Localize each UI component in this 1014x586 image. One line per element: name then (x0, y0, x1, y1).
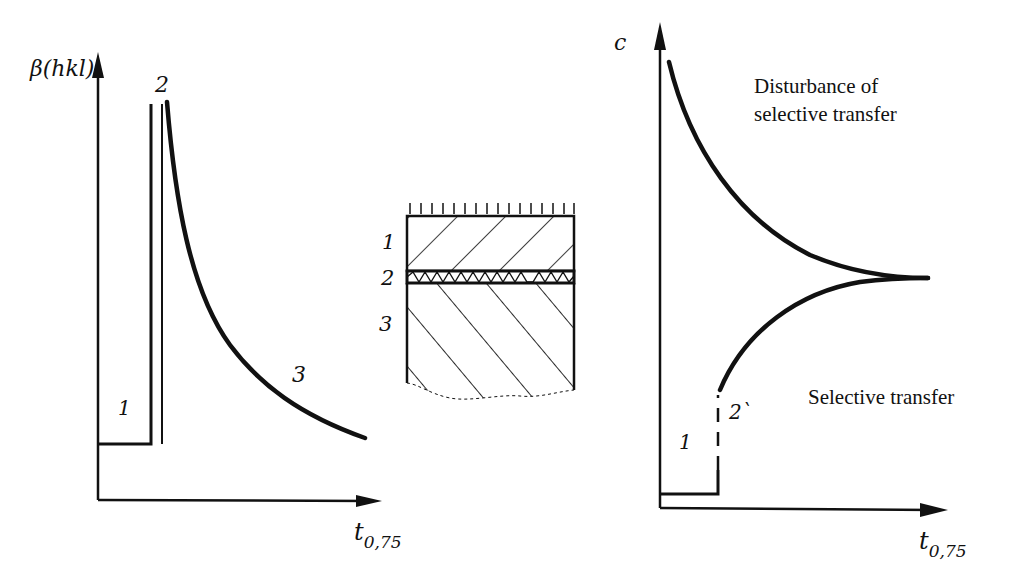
right-graph: c Disturbance of selective transfer Sele… (614, 22, 967, 561)
figure-canvas: β(hkl) 1 2 3 t0,75 1 2 3 (0, 0, 1014, 586)
left-decay-curve (167, 102, 365, 438)
left-x-axis-arrow-icon (356, 495, 382, 507)
upper-curve-label-line2: selective transfer (754, 102, 897, 126)
right-y-axis-arrow-icon (654, 22, 666, 50)
right-region-label-2: 2` (728, 400, 752, 424)
right-x-axis (660, 508, 935, 510)
left-y-axis-label: β(hkl) (29, 56, 94, 81)
layer-label-3: 3 (379, 312, 392, 336)
right-region-label-1: 1 (679, 430, 692, 454)
lower-curve-label: Selective transfer (808, 385, 954, 409)
upper-curve-label-line1: Disturbance of (754, 74, 878, 98)
layer-label-2: 2 (380, 266, 394, 290)
left-region-label-2: 2 (154, 72, 169, 97)
left-graph: β(hkl) 1 2 3 t0,75 (29, 52, 402, 552)
left-step-region-1 (98, 104, 151, 444)
left-region-label-3: 3 (292, 362, 306, 387)
left-region-label-1: 1 (118, 396, 131, 420)
left-x-axis (98, 500, 370, 501)
right-y-axis-label: c (614, 30, 626, 55)
layer-diagram: 1 2 3 (379, 203, 574, 399)
right-step-region-1 (660, 470, 718, 494)
layer-3 (407, 283, 574, 399)
right-x-axis-arrow-icon (920, 503, 948, 517)
layer-label-1: 1 (382, 230, 395, 254)
right-x-axis-label: t0,75 (919, 527, 967, 561)
lower-curve-selective (720, 278, 928, 390)
layer-1 (407, 216, 574, 271)
left-x-axis-label: t0,75 (354, 518, 402, 552)
surface-ticks (410, 203, 574, 214)
